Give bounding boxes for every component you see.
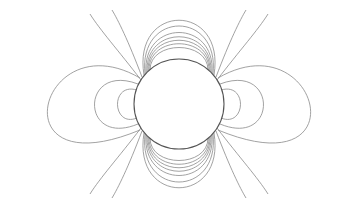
central-circle [134,59,224,149]
left-loops [47,66,140,143]
field-line-diagram [0,0,352,207]
right-loops [218,66,311,143]
